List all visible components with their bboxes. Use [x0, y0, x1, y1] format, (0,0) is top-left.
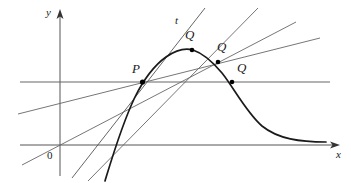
point-marker-q3 [230, 80, 235, 85]
point-label-q2: Q [217, 40, 226, 53]
point-marker-p [140, 79, 145, 84]
geometry-figure: y x 0 t P Q Q Q [0, 0, 351, 183]
point-marker-q1 [190, 48, 195, 53]
x-axis-label: x [336, 149, 341, 160]
point-label-p: P [132, 62, 140, 75]
origin-label: 0 [47, 150, 53, 161]
secant-line-pq3 [18, 38, 320, 114]
point-marker-q2 [216, 60, 221, 65]
tangent-line-label: t [175, 15, 178, 26]
point-label-q3: Q [237, 61, 246, 74]
y-axis-label: y [46, 7, 51, 18]
secant-line-pq2 [22, 22, 296, 165]
point-label-q1: Q [185, 28, 194, 41]
